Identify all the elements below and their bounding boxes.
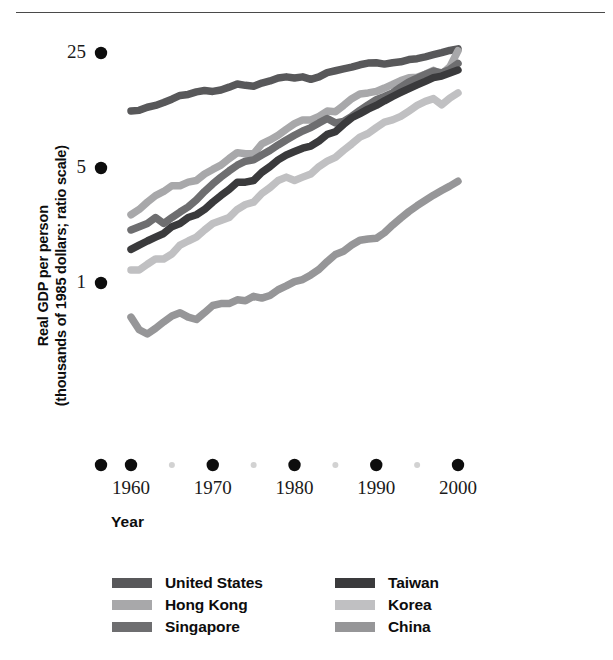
legend-swatch-icon-singapore — [112, 622, 152, 632]
x-axis-title: Year — [111, 513, 144, 531]
x-tick-label-1990: 1990 — [341, 477, 411, 499]
legend-item-taiwan: Taiwan — [335, 572, 439, 594]
x-tick-dot-1980 — [288, 459, 300, 471]
y-tick-dot-25 — [95, 47, 107, 59]
series-line-korea — [131, 93, 458, 270]
x-tick-dot-2000 — [452, 459, 464, 471]
y-tick-label-1: 1 — [52, 271, 86, 293]
legend-label-hong-kong: Hong Kong — [165, 596, 248, 614]
legend-column-right: Taiwan Korea China — [335, 572, 439, 638]
legend-label-united-states: United States — [165, 574, 263, 592]
legend-label-china: China — [388, 618, 431, 636]
x-tick-label-2000: 2000 — [423, 477, 493, 499]
legend-swatch-icon-korea — [335, 600, 375, 610]
x-tick-label-1970: 1970 — [178, 477, 248, 499]
x-minor-tick-dot-1975 — [251, 462, 257, 468]
line-chart-svg — [0, 0, 613, 560]
legend-item-united-states: United States — [112, 572, 263, 594]
x-tick-dot-1970 — [207, 459, 219, 471]
x-tick-dot-1960 — [125, 459, 137, 471]
y-tick-label-25: 25 — [52, 41, 86, 63]
legend-swatch-icon-hong-kong — [112, 600, 152, 610]
legend-label-taiwan: Taiwan — [388, 574, 439, 592]
legend-item-china: China — [335, 616, 439, 638]
legend-item-korea: Korea — [335, 594, 439, 616]
x-tick-dot-1990 — [370, 459, 382, 471]
legend-item-hong-kong: Hong Kong — [112, 594, 263, 616]
y-axis-title-line1: Real GDP per person — [35, 126, 53, 426]
legend-swatch-icon-taiwan — [335, 578, 375, 588]
x-minor-tick-dot-1985 — [332, 462, 338, 468]
x-tick-label-1980: 1980 — [260, 477, 330, 499]
chart-legend: United States Hong Kong Singapore Taiwan… — [0, 572, 613, 654]
legend-swatch-icon-china — [335, 622, 375, 632]
legend-swatch-icon-united-states — [112, 578, 152, 588]
y-tick-dot-5 — [95, 162, 107, 174]
y-tick-label-5: 5 — [52, 156, 86, 178]
series-line-china — [131, 181, 458, 334]
plot-area — [0, 0, 613, 560]
legend-item-singapore: Singapore — [112, 616, 263, 638]
x-axis-origin-dot — [95, 459, 107, 471]
legend-label-singapore: Singapore — [165, 618, 240, 636]
x-minor-tick-dot-1965 — [169, 462, 175, 468]
figure: Real GDP per person (thousands of 1985 d… — [0, 0, 613, 660]
x-minor-tick-dot-1995 — [414, 462, 420, 468]
y-tick-dot-1 — [95, 277, 107, 289]
x-tick-label-1960: 1960 — [96, 477, 166, 499]
legend-column-left: United States Hong Kong Singapore — [112, 572, 263, 638]
legend-label-korea: Korea — [388, 596, 431, 614]
